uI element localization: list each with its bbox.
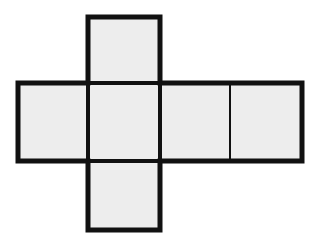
face-row-center	[88, 83, 160, 161]
face-row-right	[160, 83, 230, 161]
cube-net-figure	[0, 0, 320, 245]
face-row-left	[18, 83, 88, 161]
face-top	[88, 17, 160, 83]
cube-net-canvas	[0, 0, 320, 245]
face-bottom	[88, 161, 160, 230]
face-row-far-right	[230, 83, 302, 161]
